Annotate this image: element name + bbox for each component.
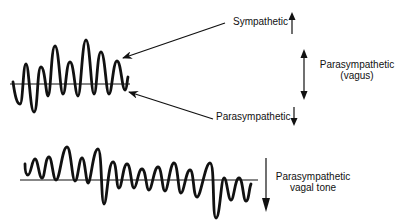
vagal-tone-down-arrow-icon xyxy=(262,158,270,212)
parasympathetic-vagus-line2: (vagus) xyxy=(316,70,398,81)
sympathetic-label: Sympathetic xyxy=(233,16,288,27)
sympathetic-up-arrow-icon xyxy=(289,12,296,34)
parasympathetic-down-arrow-icon xyxy=(291,107,298,126)
vagal-tone-label: Parasympathetic vagal tone xyxy=(271,171,355,193)
parasympathetic-vagus-label: Parasympathetic (vagus) xyxy=(316,59,398,81)
vagal-tone-line2: vagal tone xyxy=(271,182,355,193)
parasympathetic-pointer-arrow xyxy=(129,92,213,119)
parasympathetic-label: Parasympathetic xyxy=(216,111,290,122)
vagal-tone-line1: Parasympathetic xyxy=(271,171,355,182)
top-waveform xyxy=(13,40,128,112)
bottom-waveform xyxy=(25,147,251,218)
vagus-up-down-arrow-icon xyxy=(301,49,308,100)
parasympathetic-vagus-line1: Parasympathetic xyxy=(316,59,398,70)
sympathetic-pointer-arrow xyxy=(123,23,225,58)
